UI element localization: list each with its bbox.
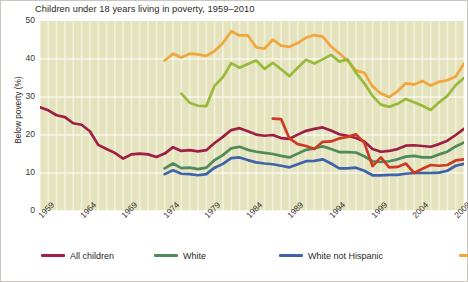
grid-stripe [247, 21, 249, 211]
chart-figure: Children under 18 years living in povert… [0, 0, 468, 282]
grid-stripe [289, 21, 291, 211]
chart-title: Children under 18 years living in povert… [35, 4, 255, 14]
grid-stripe [322, 21, 324, 211]
legend-label: All children [70, 251, 114, 261]
grid-stripe [413, 21, 415, 211]
grid-stripe [147, 21, 149, 211]
plot-svg [40, 21, 464, 211]
legend-item[interactable]: White [154, 251, 279, 261]
legend-item[interactable]: White not Hispanic [279, 251, 459, 261]
grid-stripe [131, 21, 133, 211]
y-tick-label: 20 [11, 130, 35, 139]
grid-stripe [172, 21, 174, 211]
grid-stripe [280, 21, 282, 211]
plot-area [40, 21, 464, 211]
grid-stripe [330, 21, 332, 211]
legend-swatch [41, 254, 65, 257]
grid-stripe [305, 21, 307, 211]
grid-stripe [355, 21, 357, 211]
grid-stripe [47, 21, 49, 211]
grid-stripe [97, 21, 99, 211]
grid-stripe [380, 21, 382, 211]
x-axis-ticks: 1959196419691974197919841989199419992004… [1, 211, 468, 251]
legend-item[interactable]: All children [41, 251, 154, 261]
grid-stripe [89, 21, 91, 211]
grid-stripe [106, 21, 108, 211]
legend-item[interactable]: Black [459, 251, 468, 261]
legend-swatch [459, 254, 468, 257]
grid-stripe [197, 21, 199, 211]
chart-legend: All childrenWhiteWhite not HispanicBlack… [41, 248, 461, 263]
grid-stripe [313, 21, 315, 211]
grid-stripe [372, 21, 374, 211]
grid-stripe [446, 21, 448, 211]
grid-stripe [338, 21, 340, 211]
grid-stripe [230, 21, 232, 211]
grid-stripe [463, 21, 464, 211]
grid-stripe [81, 21, 83, 211]
grid-stripe [455, 21, 457, 211]
grid-stripe [155, 21, 157, 211]
grid-stripe [72, 21, 74, 211]
grid-stripe [388, 21, 390, 211]
grid-stripe [405, 21, 407, 211]
grid-stripe [180, 21, 182, 211]
y-tick-label: 50 [11, 16, 35, 25]
grid-stripe [114, 21, 116, 211]
legend-label: White not Hispanic [308, 251, 383, 261]
grid-stripe [122, 21, 124, 211]
grid-stripe [139, 21, 141, 211]
grid-stripe [255, 21, 257, 211]
grid-stripe [430, 21, 432, 211]
legend-swatch [279, 254, 303, 257]
grid-stripe [422, 21, 424, 211]
grid-stripe [297, 21, 299, 211]
grid-stripe [438, 21, 440, 211]
grid-stripe [164, 21, 166, 211]
legend-label: White [183, 251, 206, 261]
grid-stripe [189, 21, 191, 211]
grid-stripe [239, 21, 241, 211]
legend-swatch [154, 254, 178, 257]
y-tick-label: 40 [11, 54, 35, 63]
grid-stripe [363, 21, 365, 211]
grid-stripe [222, 21, 224, 211]
grid-stripe [272, 21, 274, 211]
grid-stripe [397, 21, 399, 211]
grid-stripe [347, 21, 349, 211]
grid-stripe [205, 21, 207, 211]
y-tick-label: 30 [11, 92, 35, 101]
grid-stripe [40, 21, 41, 211]
y-tick-label: 10 [11, 168, 35, 177]
